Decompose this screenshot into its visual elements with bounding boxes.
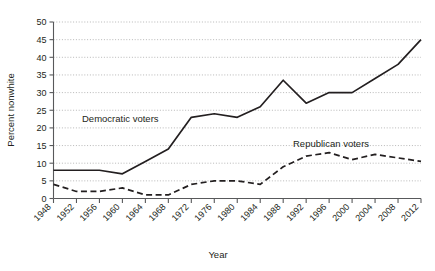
y-tick-label: 5	[41, 176, 46, 186]
x-axis-tick-labels: 1948195219561960196419681972197619801984…	[32, 202, 421, 223]
y-tick-label: 30	[36, 88, 46, 98]
x-tick-label: 1956	[78, 202, 99, 223]
x-tick-label: 2008	[376, 202, 397, 223]
x-tick-label: 1976	[192, 202, 213, 223]
x-tick-label: 1960	[101, 202, 122, 223]
x-tick-label: 1996	[307, 202, 328, 223]
republican-series-label: Republican voters	[293, 138, 369, 149]
x-tick-label: 1964	[124, 202, 145, 223]
x-tick-label: 2004	[353, 202, 374, 223]
x-tick-label: 1968	[147, 202, 168, 223]
x-tick-label: 2012	[399, 202, 420, 223]
series-line-democratic	[54, 40, 422, 174]
y-axis-tick-labels: 05101520253035404550	[36, 17, 46, 204]
y-tick-label: 10	[36, 159, 46, 169]
x-tick-label: 2000	[330, 202, 351, 223]
y-tick-label: 20	[36, 123, 46, 133]
line-chart: 05101520253035404550 1948195219561960196…	[0, 0, 435, 271]
x-axis-title: Year	[208, 249, 227, 260]
chart-figure: 05101520253035404550 1948195219561960196…	[0, 0, 435, 271]
y-tick-label: 40	[36, 53, 46, 63]
y-tick-label: 15	[36, 141, 46, 151]
y-tick-label: 35	[36, 70, 46, 80]
x-tick-label: 1948	[32, 202, 53, 223]
x-tick-label: 1980	[215, 202, 236, 223]
x-tick-label: 1972	[169, 202, 190, 223]
y-tick-label: 25	[36, 106, 46, 116]
x-tick-label: 1984	[238, 202, 259, 223]
democratic-series-label: Democratic voters	[82, 113, 159, 124]
y-axis-title: Percent nonwhite	[5, 73, 16, 146]
x-tick-label: 1952	[55, 202, 76, 223]
y-axis-ticks	[50, 22, 54, 199]
y-tick-label: 50	[36, 17, 46, 27]
y-tick-label: 45	[36, 35, 46, 45]
series-line-republican	[54, 153, 422, 195]
x-tick-label: 1988	[261, 202, 282, 223]
x-tick-label: 1992	[284, 202, 305, 223]
